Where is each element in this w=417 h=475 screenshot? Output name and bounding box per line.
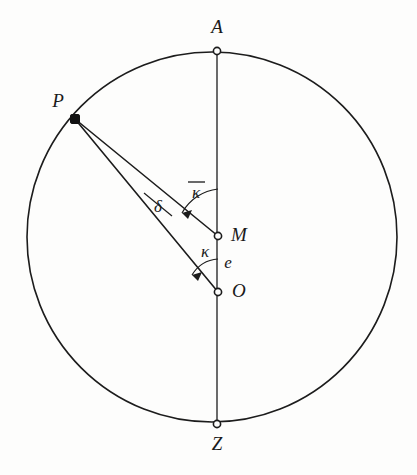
- point-marker-O: [214, 288, 221, 295]
- point-marker-A: [213, 47, 220, 54]
- label-angle-kappa: κ: [201, 242, 210, 261]
- label-segment-e: e: [224, 253, 232, 272]
- figure-background: [0, 0, 417, 475]
- label-angle-delta: δ: [154, 197, 163, 216]
- label-point-A: A: [209, 16, 223, 37]
- label-point-O: O: [232, 280, 246, 301]
- label-angle-kappa-bar: κ: [192, 183, 201, 202]
- label-point-M: M: [230, 224, 248, 245]
- point-marker-Z: [213, 420, 220, 427]
- point-marker-P: [71, 115, 80, 124]
- figure-canvas: A P M O Z κ κ δ e: [0, 0, 417, 475]
- point-marker-M: [214, 232, 221, 239]
- geometry-figure: A P M O Z κ κ δ e: [0, 0, 417, 475]
- label-point-P: P: [51, 90, 64, 111]
- label-point-Z: Z: [212, 433, 223, 454]
